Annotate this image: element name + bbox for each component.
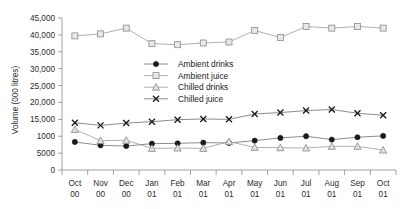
x-tick-label-month: Mar (196, 179, 210, 188)
chart-legend: Ambient drinksAmbient juiceChilled drink… (144, 59, 233, 104)
x-tick-label-year: 00 (96, 190, 106, 199)
series-layer (71, 23, 387, 153)
data-point-open-square (354, 23, 360, 29)
x-tick-label-month: May (247, 179, 263, 188)
x-tick-label-year: 01 (224, 190, 234, 199)
x-tick-label-month: Sep (350, 179, 365, 188)
y-axis-ticks: 05000100015,00020,00025,00030,00035,0004… (30, 14, 62, 175)
x-tick-label-month: Jan (145, 179, 159, 188)
chart-container: Volume (000 litres) 05000100015,00020,00… (0, 0, 403, 209)
x-tick-label-year: 00 (70, 190, 80, 199)
x-tick-label-year: 00 (122, 190, 132, 199)
x-tick-label-month: Dec (119, 179, 134, 188)
data-point-open-triangle (71, 126, 78, 133)
x-tick-label-month: Jul (301, 179, 312, 188)
x-axis-ticks: Oct00Nov00Dec00Jan01Feb01Mar01Apr01May01… (62, 170, 396, 199)
data-point-filled-circle (278, 135, 283, 140)
y-tick-label: 25,000 (30, 82, 55, 91)
x-tick-label-year: 01 (147, 190, 157, 199)
data-point-open-square (380, 25, 386, 31)
data-point-open-square (303, 23, 309, 29)
data-point-open-square (149, 41, 155, 47)
x-tick-label-month: Apr (223, 179, 236, 188)
y-tick-label: 35,000 (30, 48, 55, 57)
data-point-filled-circle (252, 138, 257, 143)
legend-label: Ambient juice (178, 71, 229, 81)
x-tick-label-year: 01 (379, 190, 389, 199)
data-point-open-square (200, 40, 206, 46)
data-point-open-square (329, 25, 335, 31)
y-tick-label: 20,000 (30, 98, 55, 107)
x-tick-label-year: 01 (199, 190, 209, 199)
y-tick-label: 1000 (37, 132, 56, 141)
legend-label: Ambient drinks (178, 59, 233, 69)
x-tick-label-month: Oct (68, 179, 81, 188)
y-tick-label: 40,000 (30, 31, 55, 40)
data-point-open-square (175, 42, 181, 48)
y-tick-label: 30,000 (30, 65, 55, 74)
series-line (75, 110, 383, 126)
data-point-filled-circle (153, 61, 158, 66)
y-tick-label: 0 (50, 166, 55, 175)
series-ambient-juice (72, 23, 386, 47)
y-axis-title: Volume (000 litres) (11, 66, 20, 135)
series-chilled-juice (72, 107, 386, 129)
x-tick-label-month: Feb (171, 179, 186, 188)
series-chilled-drinks (71, 126, 387, 153)
data-point-open-square (153, 73, 159, 79)
x-tick-label-year: 01 (327, 190, 337, 199)
x-tick-label-year: 01 (353, 190, 363, 199)
legend-label: Chilled drinks (178, 82, 228, 92)
x-tick-label-month: Oct (377, 179, 390, 188)
data-point-open-square (72, 33, 78, 39)
data-point-filled-circle (355, 135, 360, 140)
legend-item[interactable]: Ambient juice (144, 71, 229, 81)
data-point-open-square (123, 25, 129, 31)
legend-item[interactable]: Chilled juice (144, 94, 223, 104)
x-tick-label-month: Aug (324, 179, 339, 188)
data-point-filled-circle (124, 143, 129, 148)
x-tick-label-month: Jun (274, 179, 288, 188)
x-tick-label-year: 01 (250, 190, 260, 199)
data-point-filled-circle (303, 134, 308, 139)
y-tick-label: 45,000 (30, 14, 55, 23)
x-tick-label-year: 01 (302, 190, 312, 199)
legend-item[interactable]: Chilled drinks (144, 82, 228, 92)
data-point-filled-circle (381, 133, 386, 138)
x-tick-label-year: 01 (276, 190, 286, 199)
data-point-open-square (226, 39, 232, 45)
line-chart: Volume (000 litres) 05000100015,00020,00… (0, 0, 403, 209)
y-tick-label: 15,000 (30, 115, 55, 124)
y-tick-label: 5000 (37, 149, 56, 158)
data-point-open-square (98, 31, 104, 37)
data-point-open-square (252, 27, 258, 33)
data-point-open-square (277, 35, 283, 41)
data-point-open-triangle (225, 138, 232, 145)
data-point-filled-circle (72, 139, 77, 144)
legend-item[interactable]: Ambient drinks (144, 59, 233, 69)
x-tick-label-month: Nov (93, 179, 108, 188)
data-point-filled-circle (329, 137, 334, 142)
legend-label: Chilled juice (178, 94, 223, 104)
x-tick-label-year: 01 (173, 190, 183, 199)
